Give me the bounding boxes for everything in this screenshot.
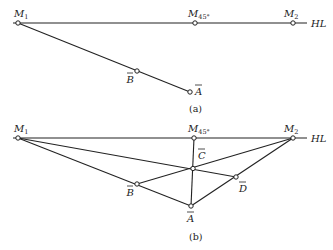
point-m1-a <box>16 21 20 25</box>
figure-b: M1 M45° M2 HL C B A D (b) <box>13 123 327 242</box>
point-d-b <box>234 175 238 179</box>
point-m1-b <box>16 136 20 140</box>
point-center-b <box>191 166 195 170</box>
point-a-b <box>189 204 193 208</box>
label-d-b: D <box>238 183 247 194</box>
point-m2-a <box>291 21 295 25</box>
label-m2-a: M2 <box>283 8 298 21</box>
figure-a: M1 M45° M2 HL B A (a) <box>13 8 327 114</box>
line-m2-b-b <box>137 138 293 184</box>
label-b-b: B <box>126 187 134 198</box>
point-b-b <box>135 182 139 186</box>
line-m1-a-a <box>18 23 190 92</box>
label-b-a: B <box>126 74 134 85</box>
label-m1-b: M1 <box>13 123 28 136</box>
line-m45-a-b <box>191 138 194 206</box>
point-m2-b <box>291 136 295 140</box>
label-a-b: A <box>186 213 194 224</box>
point-b-a <box>135 69 139 73</box>
label-a-a: A <box>194 86 202 97</box>
line-m1-a-b <box>18 138 191 206</box>
caption-a: (a) <box>189 103 202 114</box>
point-a-a <box>188 90 192 94</box>
caption-b: (b) <box>189 231 203 242</box>
point-m45-b <box>192 136 196 140</box>
point-m45-a <box>193 21 197 25</box>
label-hl-a: HL <box>310 18 327 29</box>
label-m45-b: M45° <box>187 123 210 136</box>
label-m45-a: M45° <box>187 8 210 21</box>
label-hl-b: HL <box>310 133 327 144</box>
label-m2-b: M2 <box>283 123 298 136</box>
label-c-b: C <box>198 150 206 161</box>
perspective-diagram: M1 M45° M2 HL B A (a) M1 M45° M2 HL <box>0 0 333 250</box>
label-m1-a: M1 <box>13 8 28 21</box>
